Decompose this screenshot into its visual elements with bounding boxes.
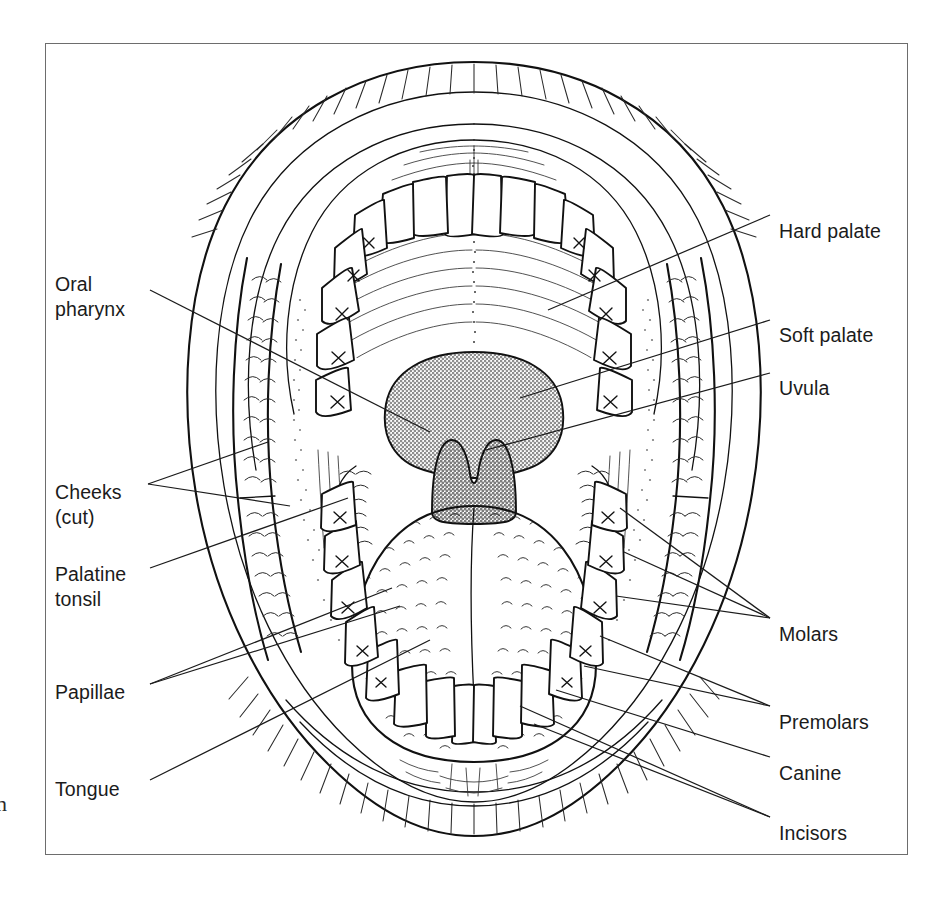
label-palatine-tonsil[interactable]: Palatine tonsil (55, 562, 126, 612)
label-canine[interactable]: Canine (779, 761, 841, 786)
label-tongue[interactable]: Tongue (55, 777, 120, 802)
margin-text-fragment: n (0, 791, 7, 817)
label-cheeks-cut[interactable]: Cheeks (cut) (55, 480, 122, 530)
label-uvula[interactable]: Uvula (779, 376, 829, 401)
label-molars[interactable]: Molars (779, 622, 838, 647)
figure-root: n (0, 0, 946, 899)
label-hard-palate[interactable]: Hard palate (779, 219, 881, 244)
label-soft-palate[interactable]: Soft palate (779, 323, 873, 348)
label-papillae[interactable]: Papillae (55, 680, 125, 705)
label-oral-pharynx[interactable]: Oral pharynx (55, 272, 125, 322)
label-premolars[interactable]: Premolars (779, 710, 869, 735)
label-incisors[interactable]: Incisors (779, 821, 847, 846)
